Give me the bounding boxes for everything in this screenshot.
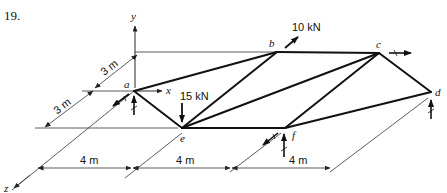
- node-label-d: d: [435, 86, 441, 98]
- member-ab: [134, 52, 277, 91]
- space-truss-diagram: 19. z y x a b c: [0, 0, 447, 193]
- z-axis-arrow: [14, 175, 30, 188]
- reaction-f-z: [263, 133, 278, 145]
- load-label-b: 10 kN: [292, 21, 321, 33]
- node-label-b: b: [269, 37, 275, 49]
- member-bc: [277, 52, 379, 53]
- reaction-a-z: [113, 94, 129, 106]
- member-ec: [182, 53, 379, 128]
- problem-number: 19.: [4, 8, 20, 23]
- dimension-label-3m-lower: 3 m: [51, 96, 73, 117]
- dimension-label-4m-3: 4 m: [289, 154, 307, 166]
- truss-members: [134, 52, 431, 128]
- member-ae: [134, 91, 182, 128]
- node-label-a: a: [124, 78, 130, 90]
- x-axis-label: x: [165, 84, 171, 96]
- y-axis-label: y: [130, 10, 136, 22]
- dimension-label-3m-upper: 3 m: [98, 57, 120, 78]
- node-label-e: e: [180, 132, 185, 144]
- load-label-e: 15 kN: [180, 90, 209, 102]
- dimension-label-4m-1: 4 m: [80, 154, 98, 166]
- z-axis-label: z: [3, 182, 9, 193]
- load-arrow-b: [285, 37, 298, 48]
- node-label-f: f: [292, 129, 297, 141]
- node-label-c: c: [376, 38, 381, 50]
- member-cd: [379, 53, 431, 92]
- dimension-label-4m-2: 4 m: [176, 154, 194, 166]
- reference-lines: [12, 52, 428, 190]
